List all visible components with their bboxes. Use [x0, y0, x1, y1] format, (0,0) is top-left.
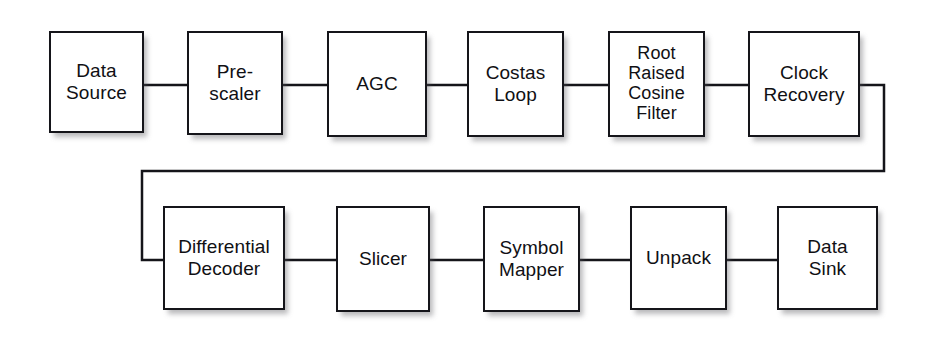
block-data-sink[interactable]: Data Sink [777, 206, 878, 310]
block-pre-scaler-label: Pre- scaler [206, 61, 263, 106]
block-clock-recovery-label: Clock Recovery [760, 62, 847, 107]
block-pre-scaler[interactable]: Pre- scaler [187, 31, 283, 135]
block-costas-loop-label: Costas Loop [483, 62, 549, 107]
block-slicer-label: Slicer [356, 248, 410, 270]
block-clock-recovery[interactable]: Clock Recovery [748, 31, 860, 137]
block-agc[interactable]: AGC [327, 31, 427, 137]
block-differential-decoder-label: Differential Decoder [175, 236, 273, 281]
block-rrc-filter[interactable]: Root Raised Cosine Filter [608, 31, 705, 137]
block-symbol-mapper[interactable]: Symbol Mapper [483, 206, 580, 312]
block-data-source[interactable]: Data Source [49, 31, 144, 133]
block-differential-decoder[interactable]: Differential Decoder [163, 206, 285, 310]
block-costas-loop[interactable]: Costas Loop [467, 31, 564, 137]
block-agc-label: AGC [353, 73, 400, 95]
block-data-sink-label: Data Sink [804, 236, 851, 281]
block-diagram-canvas: Data Source Pre- scaler AGC Costas Loop … [0, 0, 930, 343]
block-slicer[interactable]: Slicer [336, 206, 430, 312]
block-unpack-label: Unpack [643, 247, 714, 269]
block-data-source-label: Data Source [63, 60, 130, 105]
block-symbol-mapper-label: Symbol Mapper [496, 237, 567, 282]
block-rrc-filter-label: Root Raised Cosine Filter [625, 44, 688, 123]
block-unpack[interactable]: Unpack [630, 206, 727, 310]
